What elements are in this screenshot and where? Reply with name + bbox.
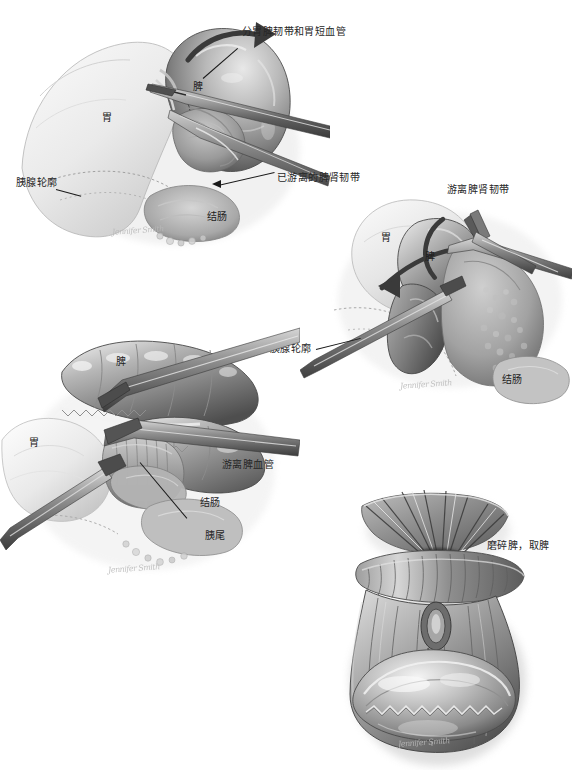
organ-label-colon-1: 结肠: [207, 211, 228, 222]
organ-label-stomach-2: 胃: [381, 232, 391, 243]
panel-4-morcellate-and-remove-spleen: Jennifer Smith: [320, 490, 550, 770]
organ-label-colon-2: 结肠: [502, 374, 523, 385]
callout-pancreas-outline-1: 胰腺轮廓: [16, 177, 58, 188]
panel-1-illustration: [0, 0, 330, 260]
panel-2-mobilize-splenorenal-ligament: Jennifer Smith: [300, 170, 572, 410]
organ-label-spleen-2: 脾: [425, 251, 435, 262]
callout-mobilize-splenic-vessels: 游离脾血管: [222, 459, 274, 470]
arrowhead-splenorenal: [212, 180, 221, 188]
organ-label-colon-3: 结肠: [200, 497, 221, 508]
organ-label-stomach-3: 胃: [29, 437, 39, 448]
panel-4-illustration: [320, 490, 550, 770]
callout-morcellate-and-remove-spleen: 磨碎脾，取脾: [487, 540, 549, 551]
organ-label-stomach-1: 胃: [102, 112, 112, 123]
organ-label-spleen-1: 脾: [193, 81, 203, 92]
panel-2-illustration: [300, 170, 572, 410]
callout-pancreatic-tail: 胰尾: [205, 530, 226, 541]
panel-3-mobilize-splenic-vessels: Jennifer Smith: [0, 320, 300, 590]
figure-canvas: Jennifer Smith 分胃脾韧带和胃短血管 胰腺轮廓 已游离的脾肾韧带 …: [0, 0, 572, 779]
organ-label-spleen-3: 脾: [116, 356, 126, 367]
panel-1-divide-gastrosplenic-ligament: Jennifer Smith: [0, 0, 330, 260]
callout-mobilize-splenorenal-ligament: 游离脾肾韧带: [447, 184, 509, 195]
callout-gastrosplenic-ligament: 分胃脾韧带和胃短血管: [242, 26, 346, 37]
panel-3-illustration: [0, 320, 300, 590]
